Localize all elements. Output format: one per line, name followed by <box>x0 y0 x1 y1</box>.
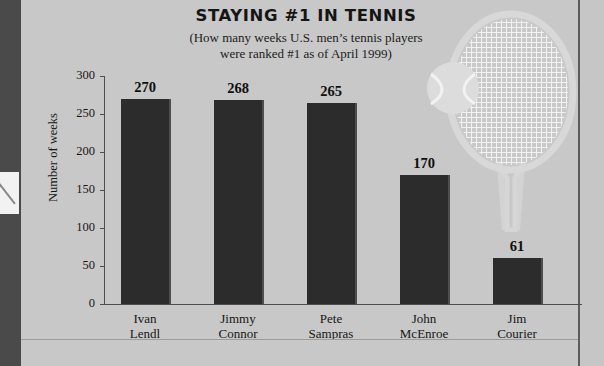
y-tick-mark <box>100 304 105 305</box>
y-tick-mark <box>100 114 105 115</box>
page-right-margin-strip <box>580 0 604 366</box>
x-axis-category-label: JimCourier <box>469 311 565 341</box>
y-tick-mark <box>100 228 105 229</box>
category-label-line-1: Ivan <box>133 311 156 326</box>
bar-value-label: 265 <box>296 83 366 100</box>
category-label-line-1: John <box>412 311 437 326</box>
chart-panel: STAYING #1 IN TENNIS (How many weeks U.S… <box>21 0 578 340</box>
category-label-line-1: Jimmy <box>220 311 255 326</box>
y-tick-label: 0 <box>59 297 95 310</box>
chart-title: STAYING #1 IN TENNIS <box>121 6 491 25</box>
page-left-clipped-figure <box>0 172 19 214</box>
y-tick-label: 100 <box>59 221 95 234</box>
category-label-line-1: Pete <box>320 311 342 326</box>
x-axis-line <box>104 304 582 305</box>
y-tick-label: 50 <box>59 259 95 272</box>
bar <box>493 258 541 304</box>
y-tick-label: 300 <box>59 69 95 82</box>
diagonal-line-mark <box>0 176 16 204</box>
bar-value-label: 268 <box>203 80 273 97</box>
bar <box>400 175 448 304</box>
chart-subtitle-line-1: (How many weeks U.S. men’s tennis player… <box>189 30 422 45</box>
bar <box>121 99 169 304</box>
bar <box>307 103 355 304</box>
y-tick-label: 150 <box>59 183 95 196</box>
y-tick-mark <box>100 190 105 191</box>
x-axis-category-label: JohnMcEnroe <box>376 311 472 341</box>
y-tick-mark <box>100 266 105 267</box>
category-label-line-1: Jim <box>508 311 527 326</box>
bar <box>214 100 262 304</box>
bar-value-label: 61 <box>482 238 552 255</box>
y-tick-mark <box>100 152 105 153</box>
source-band: Source: Based on statistics from IBM/ATP <box>21 340 578 366</box>
x-axis-category-label: JimmyConnor <box>190 311 286 341</box>
y-tick-mark <box>100 76 105 77</box>
bar-value-label: 270 <box>110 79 180 96</box>
chart-screenshot: STAYING #1 IN TENNIS (How many weeks U.S… <box>0 0 604 366</box>
page-right-rule <box>578 0 580 366</box>
x-axis-category-label: IvanLendl <box>97 311 193 341</box>
x-axis-category-label: PeteSampras <box>283 311 379 341</box>
y-tick-label: 200 <box>59 145 95 158</box>
y-tick-label: 250 <box>59 107 95 120</box>
chart-subtitle: (How many weeks U.S. men’s tennis player… <box>111 30 501 61</box>
bar-value-label: 170 <box>389 155 459 172</box>
chart-subtitle-line-2: were ranked #1 as of April 1999) <box>111 46 501 62</box>
